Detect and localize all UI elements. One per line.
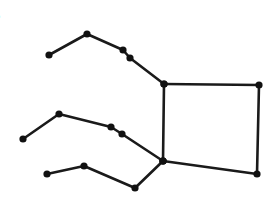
bottom-chain-edge	[47, 166, 84, 174]
quad-edge	[164, 84, 259, 85]
top-chain-node	[83, 30, 90, 37]
top-chain-edge	[130, 58, 164, 84]
bottom-chain-node	[80, 162, 87, 169]
middle-chain-edge	[59, 114, 111, 127]
middle-chain-node	[55, 110, 62, 117]
diagram-nodes	[19, 30, 262, 191]
top-chain-edge	[49, 34, 87, 55]
top-chain-node	[160, 80, 167, 87]
middle-chain-edge	[23, 114, 59, 139]
quad-edge	[257, 85, 259, 174]
top-chain-edge	[87, 34, 123, 50]
top-chain-node	[119, 46, 126, 53]
bottom-chain-node	[159, 157, 166, 164]
diagram-canvas	[0, 0, 278, 203]
middle-chain-node	[107, 123, 114, 130]
middle-chain-node	[118, 130, 125, 137]
quad-edge	[163, 84, 164, 161]
quad-node	[253, 170, 260, 177]
top-chain-node	[45, 51, 52, 58]
bottom-chain-node	[43, 170, 50, 177]
quad-edge	[163, 161, 257, 174]
bottom-chain-edge	[84, 166, 135, 188]
bottom-chain-edge	[135, 161, 163, 188]
middle-chain-edge	[122, 134, 163, 161]
middle-chain-node	[19, 135, 26, 142]
quad-node	[255, 81, 262, 88]
bottom-chain-node	[131, 184, 138, 191]
top-chain-node	[126, 54, 133, 61]
